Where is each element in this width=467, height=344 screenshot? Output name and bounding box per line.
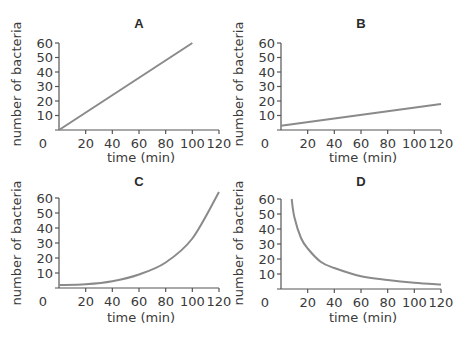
y-tick-label: 40 xyxy=(36,221,53,236)
chart-panel-a: A102030405060020406080100120time (min)nu… xyxy=(9,16,231,165)
x-tick-label: 20 xyxy=(77,294,94,309)
x-tick-label: 100 xyxy=(402,136,427,151)
x-tick-label: 80 xyxy=(157,294,174,309)
y-tick-label: 40 xyxy=(258,222,275,237)
y-tick-label: 30 xyxy=(36,79,53,94)
y-tick-label: 10 xyxy=(36,108,53,123)
y-tick-label: 50 xyxy=(258,50,275,65)
y-tick-label: 50 xyxy=(258,207,275,222)
x-tick-label: 20 xyxy=(77,136,94,151)
x-tick-label: 40 xyxy=(104,294,121,309)
x-tick-label: 20 xyxy=(299,295,316,310)
y-axis-label: number of bacteria xyxy=(231,22,246,147)
y-tick-label: 20 xyxy=(258,94,275,109)
chart-panel-b: B102030405060020406080100120time (min)nu… xyxy=(231,16,453,165)
chart-panel-c: C102030405060020406080100120time (min)nu… xyxy=(9,174,231,325)
chart-title: B xyxy=(356,16,365,31)
y-tick-label: 60 xyxy=(258,36,275,51)
y-axis-label: number of bacteria xyxy=(9,181,24,306)
y-tick-label: 60 xyxy=(36,191,53,206)
x-tick-label: 100 xyxy=(402,295,427,310)
y-tick-label: 50 xyxy=(36,50,53,65)
y-axis-label: number of bacteria xyxy=(231,181,246,306)
x-tick-label: 60 xyxy=(353,295,370,310)
data-line-d xyxy=(292,199,441,285)
y-tick-label: 30 xyxy=(258,79,275,94)
y-tick-label: 20 xyxy=(258,252,275,267)
x-tick-label: 60 xyxy=(353,136,370,151)
x-tick-label: 40 xyxy=(104,136,121,151)
y-axis-label: number of bacteria xyxy=(9,22,24,147)
x-axis-label: time (min) xyxy=(329,310,397,325)
x-tick-label: 120 xyxy=(207,136,232,151)
y-tick-label: 10 xyxy=(258,108,275,123)
x-axis-label: time (min) xyxy=(107,310,175,325)
data-line-c xyxy=(59,192,219,285)
x-tick-label: 20 xyxy=(299,136,316,151)
y-tick-label: 40 xyxy=(258,65,275,80)
x-tick-label: 0 xyxy=(261,295,269,310)
x-tick-label: 120 xyxy=(207,294,232,309)
x-tick-label: 0 xyxy=(39,294,47,309)
chart-title: C xyxy=(134,174,144,189)
y-tick-label: 60 xyxy=(258,192,275,207)
x-tick-label: 100 xyxy=(180,294,205,309)
x-tick-label: 80 xyxy=(379,136,396,151)
x-tick-label: 80 xyxy=(157,136,174,151)
chart-title: A xyxy=(134,16,144,31)
chart-panel-d: D102030405060020406080100120time (min)nu… xyxy=(231,174,453,325)
x-tick-label: 40 xyxy=(326,136,343,151)
y-tick-label: 50 xyxy=(36,206,53,221)
x-tick-label: 60 xyxy=(131,294,148,309)
x-tick-label: 0 xyxy=(261,136,269,151)
x-tick-label: 60 xyxy=(131,136,148,151)
x-axis-label: time (min) xyxy=(107,150,175,165)
x-tick-label: 40 xyxy=(326,295,343,310)
bacteria-growth-figure: A102030405060020406080100120time (min)nu… xyxy=(0,0,467,344)
y-tick-label: 20 xyxy=(36,251,53,266)
x-axis-label: time (min) xyxy=(329,150,397,165)
y-tick-label: 30 xyxy=(258,237,275,252)
x-tick-label: 80 xyxy=(379,295,396,310)
chart-title: D xyxy=(356,174,365,189)
x-tick-label: 100 xyxy=(180,136,205,151)
y-tick-label: 30 xyxy=(36,236,53,251)
x-tick-label: 120 xyxy=(429,136,454,151)
y-tick-label: 40 xyxy=(36,65,53,80)
x-tick-label: 0 xyxy=(39,136,47,151)
data-line-a xyxy=(59,43,192,130)
y-tick-label: 10 xyxy=(258,267,275,282)
y-tick-label: 10 xyxy=(36,266,53,281)
y-tick-label: 60 xyxy=(36,36,53,51)
y-tick-label: 20 xyxy=(36,94,53,109)
x-tick-label: 120 xyxy=(429,295,454,310)
data-line-b xyxy=(281,104,441,126)
